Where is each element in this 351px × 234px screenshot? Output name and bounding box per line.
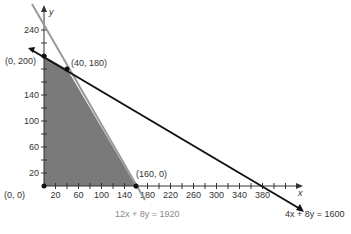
svg-text:20: 20 [50,190,60,200]
label-160-0: (160, 0) [136,169,167,179]
x-tick-labels: 20 60 100 140 180 220 260 300 340 380 [50,190,270,200]
svg-text:100: 100 [24,116,39,126]
vertex-point [42,54,47,59]
label-eq2: 4x + 8y = 1600 [285,209,345,219]
vertex-point [65,67,70,72]
x-axis-label: x [297,188,303,198]
label-40-180: (40, 180) [71,58,107,68]
label-eq1: 12x + 8y = 1920 [115,209,180,219]
vertex-point [42,184,47,189]
svg-text:100: 100 [94,190,109,200]
svg-text:140: 140 [24,90,39,100]
svg-text:60: 60 [73,190,83,200]
svg-text:60: 60 [29,142,39,152]
svg-text:220: 220 [163,190,178,200]
svg-text:300: 300 [209,190,224,200]
label-0-200: (0, 200) [5,56,36,66]
svg-text:240: 240 [24,25,39,35]
svg-text:260: 260 [186,190,201,200]
y-axis-arrow-icon [41,5,47,12]
y-axis-label: y [48,7,54,17]
vertex-point [134,184,139,189]
x-ticks [56,183,286,189]
chart: 20 60 100 140 180 220 260 300 340 380 20… [0,0,351,234]
svg-text:340: 340 [232,190,247,200]
label-0-0: (0, 0) [4,190,25,200]
feasible-region [44,56,136,186]
svg-text:380: 380 [255,190,270,200]
svg-text:140: 140 [117,190,132,200]
svg-text:20: 20 [29,168,39,178]
